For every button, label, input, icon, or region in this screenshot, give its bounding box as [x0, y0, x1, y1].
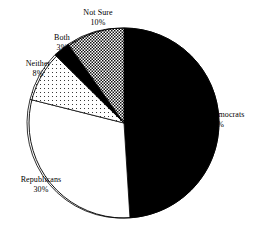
- pie-chart-page: Not Sure 10% Both 3% Neither 8% Republic…: [0, 0, 264, 232]
- pie-label-both: Both 3%: [32, 33, 92, 52]
- pie-label-democrats: Democrats 49%: [209, 110, 264, 129]
- pie-label-republicans-value: 30%: [0, 185, 82, 195]
- pie-label-both-name: Both: [32, 33, 92, 43]
- pie-label-neither-name: Neither: [6, 59, 70, 69]
- pie-slice-democrats[interactable]: [124, 28, 219, 218]
- pie-label-democrats-name: Democrats: [209, 110, 264, 120]
- pie-label-not-sure: Not Sure 10%: [61, 8, 135, 27]
- pie-label-democrats-value: 49%: [209, 120, 264, 130]
- pie-label-both-value: 3%: [32, 43, 92, 53]
- pie-label-republicans: Republicans 30%: [0, 175, 82, 194]
- pie-label-neither-value: 8%: [6, 69, 70, 79]
- pie-label-republicans-name: Republicans: [0, 175, 82, 185]
- pie-label-neither: Neither 8%: [6, 59, 70, 78]
- pie-label-not-sure-name: Not Sure: [61, 8, 135, 18]
- pie-label-not-sure-value: 10%: [61, 18, 135, 28]
